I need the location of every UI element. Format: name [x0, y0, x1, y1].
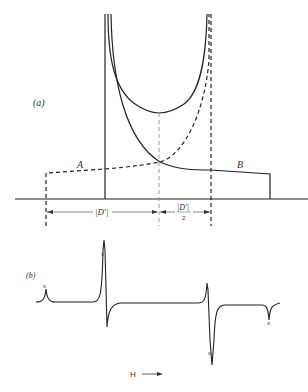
dimension-right: |D'| 2 [160, 203, 210, 221]
marker-x-peak: x [101, 251, 104, 257]
epr-spectrum-trace [36, 240, 280, 365]
field-axis-label: H [130, 370, 136, 379]
marker-x-trough: x [208, 350, 211, 356]
panel-b-label: (b) [26, 271, 36, 280]
panel-b: (b) x x x x H [26, 240, 280, 379]
marker-x-right: x [267, 320, 270, 326]
region-a-label: A [76, 159, 84, 170]
branch-a-dashed-curve [46, 14, 209, 226]
branch-b-curve [111, 14, 270, 199]
panel-a-label: (a) [33, 97, 45, 109]
u-curve [108, 14, 207, 113]
dimension-right-denominator: 2 [182, 215, 186, 221]
dimension-right-numerator: |D'| [177, 203, 189, 212]
panel-a: (a) A B |D'| |D'| [15, 14, 308, 226]
arrowhead-icon [157, 372, 163, 376]
dimension-left: |D'| [47, 207, 158, 217]
field-axis-indicator: H [130, 370, 163, 379]
region-b-label: B [237, 159, 243, 170]
zfs-energy-diagram: (a) A B |D'| |D'| [0, 0, 308, 392]
dimension-left-label: |D'| [95, 207, 108, 217]
marker-x-left: x [43, 283, 46, 289]
